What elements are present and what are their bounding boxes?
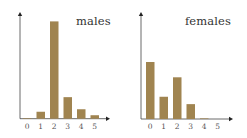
x-tick-label: 3 [186, 122, 196, 131]
x-tick-label: 2 [49, 122, 59, 131]
y-axis-arrow-icon [139, 12, 143, 16]
x-tick-label: 1 [36, 122, 46, 131]
y-axis-arrow-icon [18, 12, 22, 16]
males-chart: males 012345 [0, 0, 124, 138]
bar-2 [173, 77, 182, 119]
x-axis-arrow-icon [106, 117, 110, 121]
bar-4 [77, 109, 86, 118]
bar-0 [23, 118, 32, 119]
males-title: males [76, 14, 111, 28]
x-tick-label: 4 [199, 122, 209, 131]
x-tick-label: 2 [172, 122, 182, 131]
bar-3 [64, 97, 73, 119]
x-tick-label: 0 [145, 122, 155, 131]
x-tick-label: 4 [76, 122, 86, 131]
bar-0 [146, 62, 155, 119]
bar-3 [187, 104, 196, 119]
bar-4 [200, 118, 209, 119]
x-tick-label: 0 [22, 122, 32, 131]
x-axis-arrow-icon [229, 117, 233, 121]
x-tick-label: 5 [90, 122, 100, 131]
bar-2 [50, 21, 59, 118]
x-tick-label: 3 [63, 122, 73, 131]
x-tick-label: 1 [159, 122, 169, 131]
bar-1 [160, 97, 169, 119]
bar-1 [37, 112, 46, 119]
bar-5 [91, 115, 100, 118]
females-title: females [185, 14, 231, 28]
x-tick-label: 5 [213, 122, 223, 131]
females-chart: females 012345 [123, 0, 247, 138]
